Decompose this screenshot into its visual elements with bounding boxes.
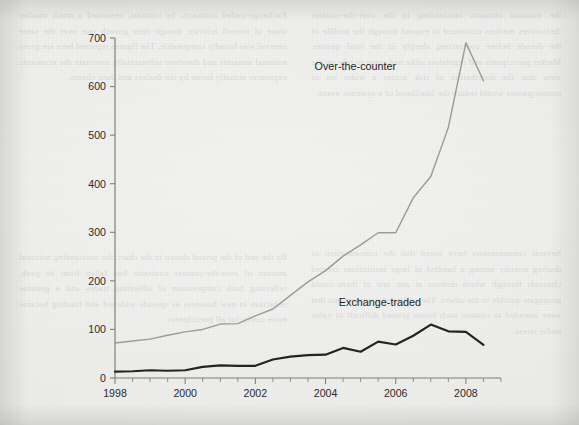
chart-axes <box>115 38 501 378</box>
annotation-exchange-traded: Exchange-traded <box>339 296 421 308</box>
chart-svg: 0100200300400500600700 19982000200220042… <box>0 0 579 425</box>
y-tick-label: 300 <box>88 226 106 238</box>
y-axis-tick-labels: 0100200300400500600700 <box>88 32 106 384</box>
chart-annotations: Over-the-counterExchange-traded <box>315 60 421 309</box>
chart-series-group <box>115 43 483 372</box>
x-axis-ticks <box>115 378 501 384</box>
annotation-over-the-counter: Over-the-counter <box>315 60 397 72</box>
x-tick-label: 2004 <box>314 387 338 399</box>
x-tick-label: 1998 <box>103 387 127 399</box>
series-line-exchange-traded <box>115 325 483 372</box>
x-tick-label: 2006 <box>384 387 408 399</box>
y-tick-label: 400 <box>88 178 106 190</box>
x-tick-label: 2008 <box>454 387 478 399</box>
x-tick-label: 2002 <box>244 387 268 399</box>
series-line-over-the-counter <box>115 43 483 343</box>
y-axis-ticks <box>110 38 115 378</box>
y-tick-label: 600 <box>88 80 106 92</box>
y-tick-label: 100 <box>88 323 106 335</box>
scanned-page: the notional amounts outstanding in the … <box>0 0 579 425</box>
line-chart: 0100200300400500600700 19982000200220042… <box>0 0 579 425</box>
x-tick-label: 2000 <box>173 387 197 399</box>
y-tick-label: 700 <box>88 32 106 44</box>
x-axis-tick-labels: 199820002002200420062008 <box>103 387 478 399</box>
y-tick-label: 0 <box>100 372 106 384</box>
y-tick-label: 500 <box>88 129 106 141</box>
y-tick-label: 200 <box>88 275 106 287</box>
